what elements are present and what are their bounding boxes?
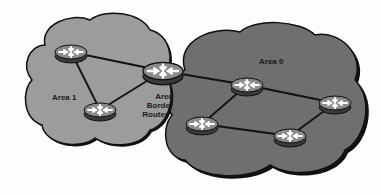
ospf-area-diagram: Area 1 Area 0 Area Border Router: [0, 0, 381, 195]
router-icon: [319, 96, 351, 114]
abr-label-line3: Router: [128, 110, 168, 119]
router-icon: [84, 103, 116, 121]
area-border-router-icon: [143, 62, 183, 85]
area-1-label: Area 1: [52, 93, 76, 102]
abr-label-line1: Area: [143, 92, 173, 101]
abr-label-line2: Border: [134, 101, 173, 110]
router-icon: [55, 45, 87, 63]
router-icon: [274, 129, 306, 147]
router-icon: [186, 117, 218, 135]
area-0-label: Area 0: [259, 57, 283, 66]
router-icon: [231, 78, 263, 96]
